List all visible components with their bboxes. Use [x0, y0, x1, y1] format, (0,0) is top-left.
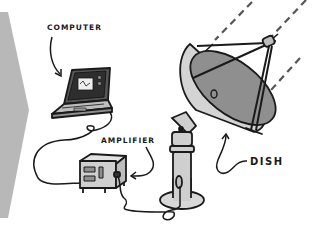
illustration-canvas	[0, 0, 323, 232]
computer-pointer-arrow-icon	[50, 37, 60, 74]
dish-label: DISH	[250, 156, 284, 167]
dish-pointer-arrow-icon	[217, 135, 247, 173]
amplifier-label: AMPLIFIER	[101, 136, 155, 145]
amplifier-icon	[80, 154, 126, 193]
chevron-arrow-shape	[0, 12, 29, 218]
radio-telescope-diagram: COMPUTER AMPLIFIER DISH	[0, 0, 323, 232]
computer-label: COMPUTER	[47, 23, 102, 32]
amplifier-pointer-arrow-icon	[132, 147, 153, 176]
dish-mount-icon	[160, 112, 204, 209]
